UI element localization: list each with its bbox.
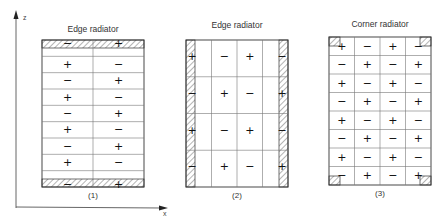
panel-1: −++−−++−−++−−++−−+ bbox=[42, 37, 144, 191]
minus-sign: − bbox=[337, 95, 346, 108]
minus-sign: − bbox=[388, 58, 397, 71]
z-axis-arrow-icon bbox=[14, 10, 19, 19]
plus-sign: + bbox=[63, 91, 72, 104]
plus-sign: + bbox=[277, 87, 286, 100]
plus-sign: + bbox=[114, 37, 123, 50]
plus-sign: + bbox=[363, 132, 372, 145]
minus-sign: − bbox=[63, 37, 72, 50]
plus-sign: + bbox=[220, 87, 229, 100]
panel-1-title: Edge radiator bbox=[67, 24, 118, 34]
z-axis-label: z bbox=[23, 14, 27, 21]
plus-sign: + bbox=[63, 123, 72, 136]
plus-sign: + bbox=[114, 74, 123, 87]
x-axis-label: x bbox=[163, 210, 167, 217]
minus-sign: − bbox=[388, 169, 397, 182]
minus-sign: − bbox=[337, 58, 346, 71]
minus-sign: − bbox=[114, 91, 123, 104]
minus-sign: − bbox=[220, 50, 229, 63]
plus-sign: + bbox=[388, 77, 397, 90]
plus-sign: + bbox=[220, 160, 229, 173]
minus-sign: − bbox=[363, 114, 372, 127]
minus-sign: − bbox=[114, 123, 123, 136]
minus-sign: − bbox=[187, 87, 196, 100]
plus-sign: + bbox=[187, 50, 196, 63]
panel-2-caption: (2) bbox=[232, 191, 242, 200]
plus-sign: + bbox=[277, 160, 286, 173]
minus-sign: − bbox=[414, 151, 423, 164]
panel-3: +−+−−+−++−+−−+−++−+−−+−++−+−−+−+ bbox=[329, 37, 431, 185]
plus-sign: + bbox=[245, 124, 254, 137]
plus-sign: + bbox=[388, 40, 397, 53]
plus-sign: + bbox=[337, 40, 346, 53]
minus-sign: − bbox=[337, 169, 346, 182]
minus-sign: − bbox=[363, 151, 372, 164]
panels-layer: −++−−++−−++−−++−−++−+−−+−++−+−−+−++−+−−+… bbox=[42, 37, 431, 191]
plus-sign: + bbox=[187, 124, 196, 137]
plus-sign: + bbox=[388, 114, 397, 127]
plus-sign: + bbox=[414, 132, 423, 145]
minus-sign: − bbox=[277, 50, 286, 63]
minus-sign: − bbox=[63, 74, 72, 87]
plus-sign: + bbox=[363, 58, 372, 71]
plus-sign: + bbox=[337, 77, 346, 90]
minus-sign: − bbox=[63, 140, 72, 153]
panel-3-title: Corner radiator bbox=[351, 19, 408, 29]
plus-sign: + bbox=[388, 151, 397, 164]
minus-sign: − bbox=[114, 156, 123, 169]
minus-sign: − bbox=[414, 114, 423, 127]
plus-sign: + bbox=[337, 151, 346, 164]
minus-sign: − bbox=[363, 77, 372, 90]
plus-sign: + bbox=[414, 95, 423, 108]
minus-sign: − bbox=[245, 87, 254, 100]
panel-2-title: Edge radiator bbox=[211, 20, 262, 30]
plus-sign: + bbox=[63, 156, 72, 169]
panel-2: +−+−−+−++−+−−+−+ bbox=[186, 40, 288, 187]
minus-sign: − bbox=[245, 160, 254, 173]
minus-sign: − bbox=[220, 124, 229, 137]
x-axis bbox=[16, 207, 162, 208]
plus-sign: + bbox=[63, 58, 72, 71]
plus-sign: + bbox=[414, 169, 423, 182]
minus-sign: − bbox=[114, 58, 123, 71]
minus-sign: − bbox=[63, 107, 72, 120]
minus-sign: − bbox=[414, 40, 423, 53]
plus-sign: + bbox=[114, 107, 123, 120]
minus-sign: − bbox=[187, 160, 196, 173]
plus-sign: + bbox=[337, 114, 346, 127]
minus-sign: − bbox=[388, 132, 397, 145]
plus-sign: + bbox=[114, 178, 123, 191]
plus-sign: + bbox=[414, 58, 423, 71]
plus-sign: + bbox=[363, 169, 372, 182]
minus-sign: − bbox=[414, 77, 423, 90]
plus-sign: + bbox=[363, 95, 372, 108]
plus-sign: + bbox=[245, 50, 254, 63]
minus-sign: − bbox=[363, 40, 372, 53]
minus-sign: − bbox=[388, 95, 397, 108]
panel-1-caption: (1) bbox=[88, 191, 98, 200]
minus-sign: − bbox=[63, 178, 72, 191]
minus-sign: − bbox=[337, 132, 346, 145]
minus-sign: − bbox=[277, 124, 286, 137]
plus-sign: + bbox=[114, 140, 123, 153]
panel-3-caption: (3) bbox=[375, 189, 385, 198]
